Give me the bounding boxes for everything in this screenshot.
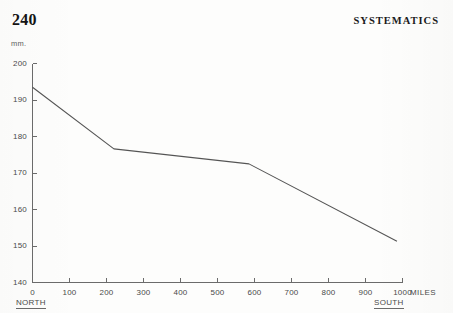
y-tick-label: 140 bbox=[5, 278, 27, 287]
y-tick-label: 160 bbox=[5, 205, 27, 214]
direction-label-north: NORTH bbox=[16, 298, 46, 309]
y-tick-label: 150 bbox=[5, 241, 27, 250]
line-chart: 140150160170180190200 010020030040050060… bbox=[0, 0, 453, 313]
y-tick-label: 170 bbox=[5, 168, 27, 177]
x-tick-label: 500 bbox=[201, 288, 235, 297]
chart-ticks bbox=[33, 64, 403, 283]
x-tick-label: 900 bbox=[349, 288, 383, 297]
chart-series-lines bbox=[33, 87, 397, 241]
x-tick-label: 600 bbox=[238, 288, 272, 297]
y-tick-label: 180 bbox=[5, 132, 27, 141]
series-line bbox=[33, 87, 397, 241]
scanned-page: 240 SYSTEMATICS mm. 14015016017018019020… bbox=[0, 0, 453, 313]
y-tick-label: 200 bbox=[5, 59, 27, 68]
x-axis-unit-label: MILES bbox=[410, 288, 436, 297]
x-tick-label: 700 bbox=[275, 288, 309, 297]
direction-label-south: SOUTH bbox=[374, 298, 404, 309]
x-tick-label: 200 bbox=[90, 288, 124, 297]
x-tick-label: 800 bbox=[312, 288, 346, 297]
x-tick-label: 300 bbox=[127, 288, 161, 297]
x-tick-label: 0 bbox=[16, 288, 50, 297]
chart-axes bbox=[33, 64, 403, 283]
chart-svg bbox=[0, 0, 453, 313]
x-tick-label: 100 bbox=[53, 288, 87, 297]
y-tick-label: 190 bbox=[5, 95, 27, 104]
x-tick-label: 400 bbox=[164, 288, 198, 297]
